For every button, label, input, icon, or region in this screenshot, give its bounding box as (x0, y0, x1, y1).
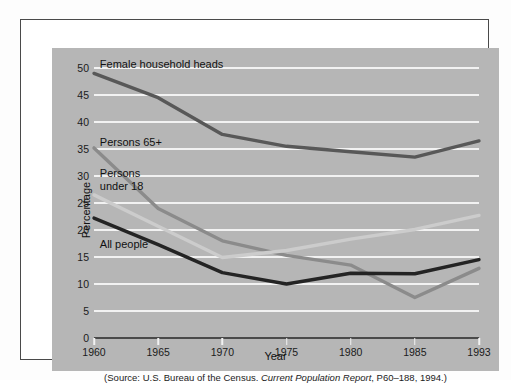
source-italic-title: Current Population Report (261, 372, 371, 383)
chart-panel: Percentage 05101520253035404550 19601965… (52, 48, 499, 371)
y-tick-label-35: 35 (77, 144, 89, 155)
y-tick-label-45: 45 (77, 90, 89, 101)
y-tick-label-30: 30 (77, 171, 89, 182)
x-tick-mark-1975 (286, 338, 288, 345)
y-tick-label-25: 25 (77, 198, 89, 209)
y-tick-label-50: 50 (77, 63, 89, 74)
x-tick-mark-1970 (222, 338, 224, 345)
annotation-persons-65: Persons 65+ (100, 136, 162, 149)
y-tick-label-15: 15 (77, 252, 89, 263)
y-tick-label-5: 5 (83, 306, 89, 317)
figure-border: Percentage 05101520253035404550 19601965… (20, 19, 489, 360)
y-tick-label-20: 20 (77, 225, 89, 236)
x-tick-mark-1965 (157, 338, 159, 345)
annotation-female-household-heads: Female household heads (100, 58, 224, 71)
x-tick-mark-1960 (93, 338, 95, 345)
annotation-persons-under-18: Persons under 18 (100, 167, 143, 193)
plot-area: 05101520253035404550 1960196519701975198… (94, 68, 479, 338)
x-tick-mark-1993 (478, 338, 480, 345)
x-tick-mark-1985 (414, 338, 416, 345)
source-suffix: , P60–188, 1994.) (371, 372, 447, 383)
source-prefix: (Source: U.S. Bureau of the Census. (104, 372, 261, 383)
y-tick-label-10: 10 (77, 279, 89, 290)
annotation-all-people: All people (100, 238, 148, 251)
x-tick-mark-1980 (350, 338, 352, 345)
series-lines (94, 68, 479, 338)
x-axis-label: Year (52, 350, 499, 362)
source-note: (Source: U.S. Bureau of the Census. Curr… (52, 372, 499, 383)
y-tick-label-40: 40 (77, 117, 89, 128)
y-tick-label-0: 0 (83, 333, 89, 344)
